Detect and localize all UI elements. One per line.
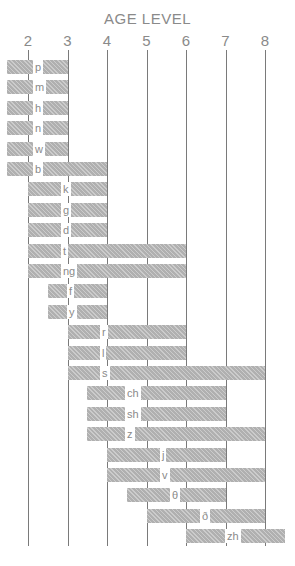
- bar-label: y: [67, 305, 77, 319]
- bar-y: [48, 305, 107, 319]
- bar-b: [7, 162, 107, 176]
- bar-r: [68, 325, 187, 339]
- chart-title: AGE LEVEL: [0, 10, 295, 27]
- bar-label: j: [160, 448, 166, 462]
- bar-label: k: [61, 182, 71, 196]
- gridline: [265, 50, 266, 546]
- bar-label: ð: [200, 509, 210, 523]
- x-tick-label: 4: [97, 32, 117, 49]
- bar-label: h: [33, 101, 43, 115]
- bar-label: f: [67, 284, 74, 298]
- x-tick-label: 2: [18, 32, 38, 49]
- bar-label: m: [33, 80, 46, 94]
- x-tick-label: 7: [216, 32, 236, 49]
- x-tick-label: 6: [176, 32, 196, 49]
- bar-z: [87, 427, 265, 441]
- bar-label: ng: [61, 264, 77, 278]
- bar-label: l: [100, 346, 106, 360]
- bar-label: r: [100, 325, 108, 339]
- bar-s: [68, 366, 266, 380]
- bar-label: θ: [170, 488, 180, 502]
- bar-label: g: [61, 203, 71, 217]
- bar-label: ch: [125, 386, 141, 400]
- bar-label: zh: [225, 529, 241, 543]
- bar-label: sh: [125, 407, 141, 421]
- bar-t: [28, 244, 186, 258]
- bar-label: z: [125, 427, 135, 441]
- consonant-age-chart: AGE LEVEL 2345678 pmhnwbkgdtngfyrlschshz…: [0, 0, 295, 566]
- bar-label: w: [33, 142, 45, 156]
- bar-l: [68, 346, 187, 360]
- bar-label: s: [100, 366, 110, 380]
- bar-ch: [87, 386, 225, 400]
- bar-label: d: [61, 223, 71, 237]
- bar-sh: [87, 407, 225, 421]
- bar-label: p: [33, 60, 43, 74]
- x-tick-label: 8: [255, 32, 275, 49]
- bar-ng: [28, 264, 186, 278]
- bar-label: t: [61, 244, 68, 258]
- bar-label: n: [33, 121, 43, 135]
- x-tick-label: 3: [58, 32, 78, 49]
- bar-f: [48, 284, 107, 298]
- bar-label: v: [160, 468, 170, 482]
- bar-v: [107, 468, 265, 482]
- bar-label: b: [33, 162, 43, 176]
- x-tick-label: 5: [137, 32, 157, 49]
